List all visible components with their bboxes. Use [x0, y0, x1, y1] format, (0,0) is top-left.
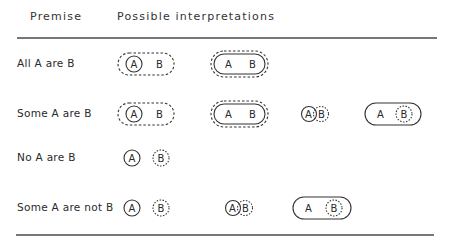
label-a: A	[225, 59, 232, 70]
label-a: A	[225, 109, 232, 120]
label-b: B	[242, 203, 249, 214]
diagram-somenot-1-a-disjoint-b: A B	[124, 200, 169, 216]
label-b: B	[156, 109, 163, 120]
label-a: A	[129, 203, 136, 214]
diagram-all-2-a-equals-b: A B	[211, 51, 268, 77]
label-b: B	[318, 109, 325, 120]
label-a: A	[305, 109, 312, 120]
diagram-somenot-2-a-overlaps-b: A B	[226, 201, 253, 216]
label-a: A	[377, 109, 384, 120]
euler-diagrams: A B A B A B A B A B	[0, 0, 451, 249]
label-a: A	[131, 109, 138, 120]
label-a: A	[129, 153, 136, 164]
label-b: B	[249, 109, 256, 120]
diagram-all-1-a-inside-b: A B	[118, 53, 174, 75]
label-b: B	[249, 59, 256, 70]
label-b: B	[156, 59, 163, 70]
diagram-somenot-3-b-inside-a: A B	[293, 197, 351, 219]
label-b: B	[331, 203, 338, 214]
label-a: A	[131, 59, 138, 70]
diagram-some-1-a-inside-b: A B	[118, 103, 174, 125]
diagram-some-4-b-inside-a: A B	[365, 103, 421, 125]
label-b: B	[158, 203, 165, 214]
label-b: B	[401, 109, 408, 120]
label-b: B	[158, 153, 165, 164]
diagram-some-2-a-equals-b: A B	[211, 101, 268, 127]
label-a: A	[229, 203, 236, 214]
label-a: A	[305, 203, 312, 214]
diagram-some-3-a-overlaps-b: A B	[302, 107, 329, 122]
diagram-no-1-a-disjoint-b: A B	[124, 150, 169, 166]
